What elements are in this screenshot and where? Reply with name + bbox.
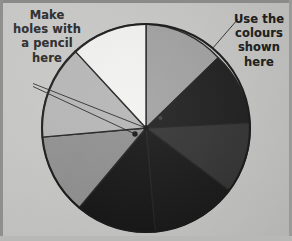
annotation-use-the-colours-shown-here: Use the colours shown here (228, 12, 290, 69)
center-hole-dot (143, 125, 148, 130)
pencil-hole-dot (132, 131, 137, 136)
annotation-make-holes-with-a-pencil-here: Make holes with a pencil here (8, 8, 86, 65)
scanned-worksheet-page: Make holes with a pencil here Use the co… (0, 0, 292, 241)
small-mark-dot (159, 116, 163, 120)
